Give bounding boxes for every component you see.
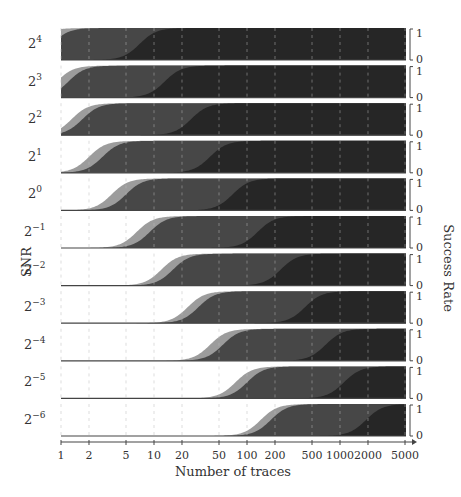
- row-y-axis: [410, 255, 413, 286]
- snr-row: 1024: [28, 27, 423, 66]
- snr-label: 2−6: [24, 410, 46, 427]
- x-tick-label: 1: [58, 449, 65, 462]
- row-y-tick-1: 1: [416, 290, 423, 303]
- snr-row: 1023: [28, 65, 423, 104]
- x-tick-label: 500: [302, 449, 323, 462]
- x-tick-label: 200: [264, 449, 285, 462]
- snr-label: 23: [28, 72, 42, 89]
- row-y-tick-0: 0: [416, 429, 423, 442]
- row-y-axis: [410, 330, 413, 361]
- row-y-axis: [410, 292, 413, 323]
- snr-row: 102−2: [24, 253, 423, 292]
- x-tick-label: 2: [85, 449, 92, 462]
- row-y-tick-1: 1: [416, 328, 423, 341]
- row-y-axis: [410, 217, 413, 248]
- x-tick-label: 1000: [326, 449, 354, 462]
- snr-row: 1022: [28, 102, 423, 141]
- row-y-tick-1: 1: [416, 403, 423, 416]
- snr-row: 1021: [28, 140, 423, 179]
- x-tick-label: 5000: [391, 449, 419, 462]
- row-y-tick-1: 1: [416, 253, 423, 266]
- x-tick-label: 5: [123, 449, 130, 462]
- y-axis-label-left: SNR: [19, 246, 34, 277]
- row-y-axis: [410, 142, 413, 173]
- row-y-axis: [410, 179, 413, 210]
- row-y-tick-1: 1: [416, 102, 423, 115]
- snr-label: 24: [28, 34, 42, 51]
- row-y-tick-1: 1: [416, 140, 423, 153]
- x-tick-label: 10: [147, 449, 161, 462]
- row-y-axis: [410, 67, 413, 98]
- snr-label: 20: [28, 184, 42, 201]
- snr-label: 21: [28, 147, 42, 164]
- row-y-axis: [410, 367, 413, 398]
- x-tick-label: 2000: [354, 449, 382, 462]
- row-y-tick-1: 1: [416, 27, 423, 40]
- snr-row: 102−5: [24, 365, 423, 404]
- row-y-tick-1: 1: [416, 177, 423, 190]
- snr-label: 2−5: [24, 372, 46, 389]
- row-y-tick-1: 1: [416, 65, 423, 78]
- snr-label: 2−3: [24, 297, 46, 314]
- snr-row: 1020: [28, 177, 423, 216]
- x-tick-label: 20: [175, 449, 189, 462]
- success-rate-chart: 10241023102210211020102−1102−2102−3102−4…: [0, 0, 461, 497]
- snr-row: 102−4: [24, 328, 423, 367]
- row-y-tick-1: 1: [416, 365, 423, 378]
- x-axis-label: Number of traces: [175, 464, 291, 479]
- x-tick-label: 50: [212, 449, 226, 462]
- x-tick-label: 100: [237, 449, 258, 462]
- snr-label: 22: [28, 109, 42, 126]
- snr-row: 102−3: [24, 290, 423, 329]
- snr-rows: 10241023102210211020102−1102−2102−3102−4…: [24, 27, 423, 442]
- snr-label: 2−1: [24, 222, 46, 239]
- x-axis: 125102050100200500100020005000: [58, 439, 420, 462]
- row-y-tick-1: 1: [416, 215, 423, 228]
- snr-row: 102−6: [24, 403, 423, 442]
- snr-row: 102−1: [24, 215, 423, 254]
- row-y-axis: [410, 405, 413, 436]
- snr-label: 2−4: [24, 335, 46, 352]
- y-axis-label-right: Success Rate: [441, 224, 456, 312]
- row-y-axis: [410, 104, 413, 135]
- row-y-axis: [410, 29, 413, 60]
